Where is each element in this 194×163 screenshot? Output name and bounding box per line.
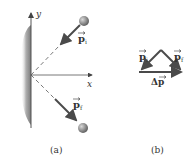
svg-text:f: f xyxy=(181,56,184,63)
svg-text:f: f xyxy=(80,104,83,111)
label-p-initial: p i xyxy=(78,32,87,46)
outgoing-dashed-path xyxy=(31,75,55,99)
label-p-final: p f xyxy=(73,98,83,112)
svg-text:p: p xyxy=(139,51,146,62)
ball-final xyxy=(78,123,88,133)
y-axis-label: y xyxy=(35,9,42,19)
x-axis-label: x xyxy=(87,79,92,89)
label-p-initial-b: p i xyxy=(139,50,148,64)
momentum-diagram: y x p i p f (a) p i xyxy=(0,0,194,163)
svg-text:p: p xyxy=(73,99,80,110)
svg-text:p: p xyxy=(174,51,181,62)
caption-b: (b) xyxy=(151,145,164,155)
caption-a: (a) xyxy=(50,145,62,155)
svg-text:i: i xyxy=(146,56,148,63)
panel-a: y x p i p f (a) xyxy=(21,9,92,155)
svg-text:p: p xyxy=(78,33,85,44)
ball-initial xyxy=(79,16,89,26)
wall-shading xyxy=(21,25,31,125)
label-p-final-b: p f xyxy=(174,50,184,64)
panel-b: p i p f Δp (b) xyxy=(139,50,184,156)
svg-text:Δp: Δp xyxy=(151,77,164,87)
incoming-dashed-path xyxy=(31,45,60,75)
label-delta-p: Δp xyxy=(151,76,166,88)
svg-text:i: i xyxy=(85,38,87,45)
